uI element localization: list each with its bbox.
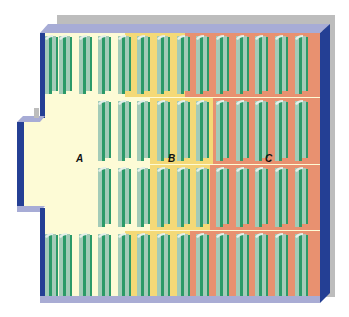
- rack-face: [302, 168, 306, 224]
- rack-upright: [286, 37, 288, 91]
- rack-face: [125, 101, 129, 158]
- right-wall: [320, 24, 330, 303]
- rack-upright: [247, 37, 249, 91]
- rack-face: [118, 234, 122, 299]
- rack-upright: [122, 36, 125, 94]
- rack-upright: [227, 169, 229, 224]
- rack-upright: [306, 37, 308, 91]
- rack-upright: [70, 37, 72, 91]
- rack-face: [144, 168, 148, 224]
- rack-face: [144, 36, 148, 91]
- zone-label-c: C: [265, 153, 272, 164]
- rack-upright: [200, 101, 203, 161]
- rack-upright: [122, 168, 125, 227]
- warehouse-diagram: A B C: [0, 0, 349, 317]
- rack-face: [66, 36, 70, 91]
- rack-upright: [83, 36, 86, 94]
- rack-face: [86, 234, 90, 296]
- rack-face: [177, 101, 181, 161]
- rack-face: [177, 36, 181, 94]
- rack-upright: [207, 102, 209, 158]
- rack-upright: [286, 102, 288, 158]
- rack-face: [45, 234, 49, 299]
- rack-face: [302, 36, 306, 91]
- rack-face: [295, 168, 299, 227]
- rack-upright: [306, 169, 308, 224]
- rack-upright: [70, 235, 72, 296]
- rack-face: [98, 36, 102, 94]
- rack-upright: [148, 169, 150, 224]
- rack-face: [203, 168, 207, 224]
- rack-upright: [259, 168, 262, 227]
- rack-upright: [227, 235, 229, 296]
- rack-face: [157, 101, 161, 161]
- rack-face: [203, 101, 207, 158]
- rack-upright: [227, 102, 229, 158]
- rack-face: [177, 234, 181, 299]
- rack-face: [79, 234, 83, 299]
- rack-upright: [188, 37, 190, 91]
- rack-upright: [207, 37, 209, 91]
- rack-upright: [220, 234, 223, 299]
- zone-label-b: B: [168, 153, 175, 164]
- rack-face: [295, 101, 299, 161]
- rack-face: [255, 36, 259, 94]
- rack-face: [255, 101, 259, 161]
- rack-upright: [200, 234, 203, 299]
- rack-face: [243, 101, 247, 158]
- bottom-edge: [40, 296, 320, 303]
- rack-upright: [122, 234, 125, 299]
- rack-upright: [279, 234, 282, 299]
- rack-face: [243, 168, 247, 224]
- rack-upright: [286, 235, 288, 296]
- rack-face: [164, 101, 168, 158]
- rack-face: [125, 36, 129, 91]
- rack-face: [302, 234, 306, 296]
- rack-face: [243, 36, 247, 91]
- rack-upright: [240, 101, 243, 161]
- rack-face: [262, 101, 266, 158]
- left-alcove-wall: [17, 122, 24, 206]
- rack-face: [184, 234, 188, 296]
- rack-upright: [207, 235, 209, 296]
- rack-face: [295, 36, 299, 94]
- rack-upright: [240, 36, 243, 94]
- rack-face: [196, 101, 200, 161]
- rack-face: [236, 101, 240, 161]
- rack-face: [98, 234, 102, 299]
- rack-face: [164, 168, 168, 224]
- rack-face: [137, 101, 141, 161]
- rack-upright: [181, 234, 184, 299]
- rack-upright: [168, 37, 170, 91]
- rack-upright: [141, 234, 144, 299]
- rack-upright: [109, 169, 111, 224]
- rack-upright: [247, 102, 249, 158]
- rack-upright: [266, 37, 268, 91]
- rack-upright: [279, 101, 282, 161]
- rack-upright: [129, 37, 131, 91]
- rack-face: [223, 168, 227, 224]
- rack-face: [105, 234, 109, 296]
- rack-upright: [299, 234, 302, 299]
- rack-upright: [200, 36, 203, 94]
- left-wall-upper: [40, 33, 45, 118]
- rack-face: [203, 234, 207, 296]
- rack-face: [59, 234, 63, 299]
- rack-upright: [220, 168, 223, 227]
- rack-upright: [161, 101, 164, 161]
- rack-upright: [299, 101, 302, 161]
- rack-upright: [220, 101, 223, 161]
- rack-face: [196, 168, 200, 227]
- rack-face: [144, 101, 148, 158]
- rack-face: [262, 234, 266, 296]
- rack-face: [59, 36, 63, 94]
- rack-upright: [129, 102, 131, 158]
- rack-face: [216, 101, 220, 161]
- rack-face: [105, 36, 109, 91]
- rack-upright: [63, 36, 66, 94]
- rack-face: [302, 101, 306, 158]
- rack-face: [282, 168, 286, 224]
- rack-upright: [141, 36, 144, 94]
- rack-upright: [259, 36, 262, 94]
- rack-upright: [259, 101, 262, 161]
